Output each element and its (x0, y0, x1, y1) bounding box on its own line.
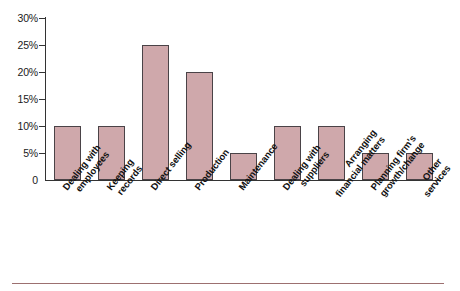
y-axis-tick-label-text: 15% (2, 94, 38, 104)
y-axis-tick-label: 30% (0, 13, 38, 23)
y-axis-tick-label-text: 5% (2, 148, 38, 158)
y-axis-tick-label-text: 30% (2, 13, 38, 23)
y-axis-tick-label: 25% (0, 40, 38, 50)
y-axis-tick-label: 10% (0, 121, 38, 131)
bar (142, 45, 169, 180)
x-axis-labels: Dealing withemployeesKeepingrecordsDirec… (0, 180, 460, 275)
bottom-divider-rule (12, 283, 444, 284)
y-axis-tick-label-text: 20% (2, 67, 38, 77)
bar-chart-figure: 05%10%15%20%25%30% Dealing withemployees… (0, 0, 460, 291)
y-axis-tick-label-text: 25% (2, 40, 38, 50)
y-axis-tick-label: 15% (0, 94, 38, 104)
y-axis-tick-label: 5% (0, 148, 38, 158)
y-axis-tick-label: 20% (0, 67, 38, 77)
y-axis-tick-label-text: 10% (2, 121, 38, 131)
